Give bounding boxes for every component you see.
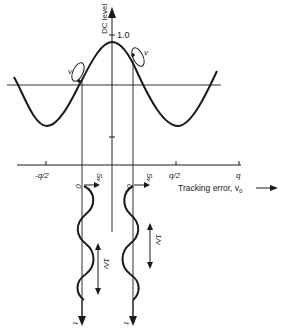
arrow-right-icon [270,185,278,191]
rotation-indicator-right: v [129,46,149,68]
svg-text:0: 0 [74,184,83,189]
svg-text:t: t [71,322,80,325]
signal-waveform-right: 0 Sv t 1/v [122,173,163,326]
arrow-down-icon [129,316,137,326]
x-axis-label: Tracking error, v0 [178,183,243,194]
y-tick-1: 1.0 [117,30,130,40]
dc-level-axis: 1.0 DC level [100,4,130,160]
arrow-down-icon [78,316,86,326]
svg-text:Sv: Sv [95,173,104,182]
svg-text:v: v [144,48,149,57]
rotation-indicator-left: v [68,61,87,83]
dc-level-curve [14,42,217,126]
svg-text:Sv: Sv [145,173,154,182]
axis-arrow-icon [108,7,116,18]
y-axis-label: DC level [100,4,109,34]
tracking-error-diagram: 1.0 DC level v v -q/2 q/2 q Tracking err… [0,0,286,331]
x-tick-q: q [236,171,241,180]
x-tick-neg-half-q: -q/2 [35,171,49,180]
period-label-right: 1/v [154,234,163,246]
period-label-left: 1/v [102,258,111,270]
x-tick-half-q: q/2 [169,171,181,180]
svg-text:t: t [122,322,131,325]
signal-waveform-left: 0 Sv t 1/v [71,173,111,326]
